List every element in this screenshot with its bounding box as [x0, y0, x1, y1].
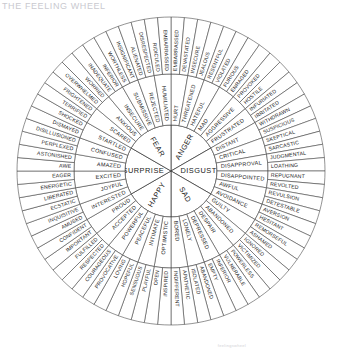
core-label-disgust: DISGUST — [180, 166, 216, 175]
core-label-surprise: SURPRISE — [123, 166, 165, 175]
feeling-wheel-svg: ANGERDISGUSTSADHAPPYSURPRISEFEAR HURTTHR… — [0, 8, 342, 344]
credit-text: feelingswheel — [218, 343, 246, 348]
outer-label-eager-53: EAGER — [52, 172, 71, 179]
outer-label-loathing-17: LOATHING — [271, 162, 299, 169]
outer-label-awe-54: AWE — [59, 162, 72, 169]
outer-label-inspired-36: INSPIRED — [162, 271, 169, 297]
feeling-wheel: ANGERDISGUSTSADHAPPYSURPRISEFEAR HURTTHR… — [0, 8, 342, 344]
